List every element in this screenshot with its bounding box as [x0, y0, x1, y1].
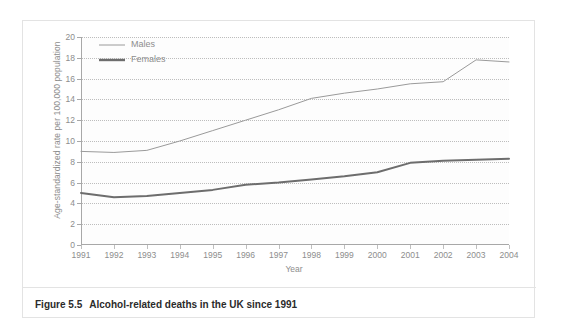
y-tick-label: 14: [66, 95, 75, 104]
x-tick-mark: [476, 245, 477, 249]
legend-label-females: Females: [131, 55, 166, 64]
caption-divider: [23, 287, 536, 288]
legend-label-males: Males: [131, 40, 155, 49]
y-tick-label: 20: [66, 33, 75, 42]
x-tick-label: 2001: [401, 251, 420, 260]
series-lines: [81, 37, 509, 245]
y-tick-label: 16: [66, 74, 75, 83]
y-tick-label: 4: [70, 199, 75, 208]
chart-area: Age-standardized rate per 100,000 popula…: [23, 21, 536, 283]
plot-area: 02468101214161820 1991199219931994199519…: [81, 37, 509, 245]
caption-title: Alcohol-related deaths in the UK since 1…: [89, 299, 297, 310]
x-tick-mark: [114, 245, 115, 249]
y-tick-label: 18: [66, 54, 75, 63]
x-tick-label: 1999: [335, 251, 354, 260]
figure-caption: Figure 5.5Alcohol-related deaths in the …: [35, 299, 297, 310]
figure-card: Age-standardized rate per 100,000 popula…: [22, 20, 535, 318]
x-tick-label: 2002: [434, 251, 453, 260]
x-tick-mark: [246, 245, 247, 249]
legend-item-males: Males: [99, 39, 166, 50]
legend-item-females: Females: [99, 54, 166, 65]
legend-swatch-females: [99, 57, 125, 63]
x-tick-label: 1998: [302, 251, 321, 260]
x-tick-mark: [81, 245, 82, 249]
chart-legend: Males Females: [99, 39, 166, 65]
series-line-males: [81, 60, 509, 153]
x-tick-mark: [443, 245, 444, 249]
x-tick-label: 2003: [467, 251, 486, 260]
x-tick-mark: [344, 245, 345, 249]
x-tick-mark: [377, 245, 378, 249]
x-tick-label: 1993: [137, 251, 156, 260]
x-tick-label: 1997: [269, 251, 288, 260]
x-tick-label: 1994: [170, 251, 189, 260]
y-axis-label: Age-standardized rate per 100,000 popula…: [52, 30, 62, 230]
y-tick-label: 12: [66, 116, 75, 125]
x-tick-label: 2000: [368, 251, 387, 260]
y-tick-label: 0: [70, 241, 75, 250]
x-tick-label: 2004: [500, 251, 519, 260]
y-tick-label: 2: [70, 220, 75, 229]
x-tick-label: 1991: [72, 251, 91, 260]
x-tick-mark: [279, 245, 280, 249]
series-line-females: [81, 159, 509, 197]
y-tick-label: 10: [66, 137, 75, 146]
x-tick-mark: [410, 245, 411, 249]
x-tick-label: 1996: [236, 251, 255, 260]
x-tick-mark: [213, 245, 214, 249]
legend-swatch-males: [99, 42, 125, 48]
x-tick-label: 1995: [203, 251, 222, 260]
x-axis-label: Year: [79, 264, 509, 274]
x-tick-mark: [147, 245, 148, 249]
x-tick-mark: [311, 245, 312, 249]
x-tick-mark: [180, 245, 181, 249]
y-tick-label: 8: [70, 158, 75, 167]
x-tick-mark: [509, 245, 510, 249]
x-tick-label: 1992: [104, 251, 123, 260]
caption-number: Figure 5.5: [35, 299, 82, 310]
y-tick-label: 6: [70, 178, 75, 187]
